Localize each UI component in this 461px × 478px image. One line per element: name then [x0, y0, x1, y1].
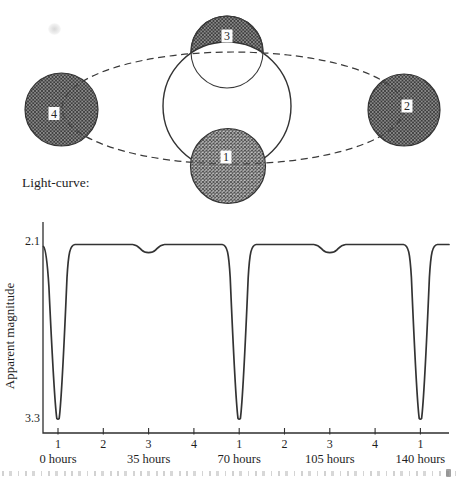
- small-star-position-1: [191, 129, 266, 204]
- scan-smudge: [48, 23, 61, 35]
- star-label-3: 3: [224, 29, 230, 43]
- x-tick-label: 1: [55, 437, 61, 451]
- x-hour-label: 105 hours: [305, 452, 355, 466]
- eclipsing-binary-figure: 3 4 2 1 Light-curve: Apparent magnitude …: [0, 0, 461, 478]
- orbit-diagram: 3 4 2 1 Light-curve:: [22, 16, 440, 204]
- light-curve-line: [44, 245, 450, 420]
- x-hour-label: 140 hours: [396, 452, 446, 466]
- small-star-position-4: [25, 73, 98, 146]
- x-tick-label: 1: [417, 437, 423, 451]
- x-tick-label: 1: [236, 437, 242, 451]
- star-label-4: 4: [51, 107, 57, 121]
- y-axis-label: Apparent magnitude: [2, 283, 17, 390]
- x-hour-label: 35 hours: [127, 452, 171, 466]
- x-tick-label: 4: [372, 437, 378, 451]
- x-tick-label: 4: [191, 437, 197, 451]
- x-hour-label: 70 hours: [217, 452, 261, 466]
- cropped-caption-mark: [446, 469, 451, 477]
- x-tick-label: 3: [146, 437, 152, 451]
- light-curve-caption: Light-curve:: [22, 175, 89, 190]
- light-curve-plot: Apparent magnitude 2.1 3.3 1234123410 ho…: [2, 222, 449, 466]
- x-tick-label: 3: [327, 437, 333, 451]
- y-tick-2-1: 2.1: [25, 234, 40, 248]
- star-label-1: 1: [223, 150, 229, 164]
- cropped-caption-fragment: [2, 471, 459, 476]
- textbook-figure-page: { "figure": { "caption_label": "Light-cu…: [0, 0, 461, 478]
- x-tick-label: 2: [100, 437, 106, 451]
- y-tick-3-3: 3.3: [25, 411, 40, 425]
- x-tick-label: 2: [282, 437, 288, 451]
- x-hour-label: 0 hours: [39, 452, 76, 466]
- star-label-2: 2: [404, 99, 410, 113]
